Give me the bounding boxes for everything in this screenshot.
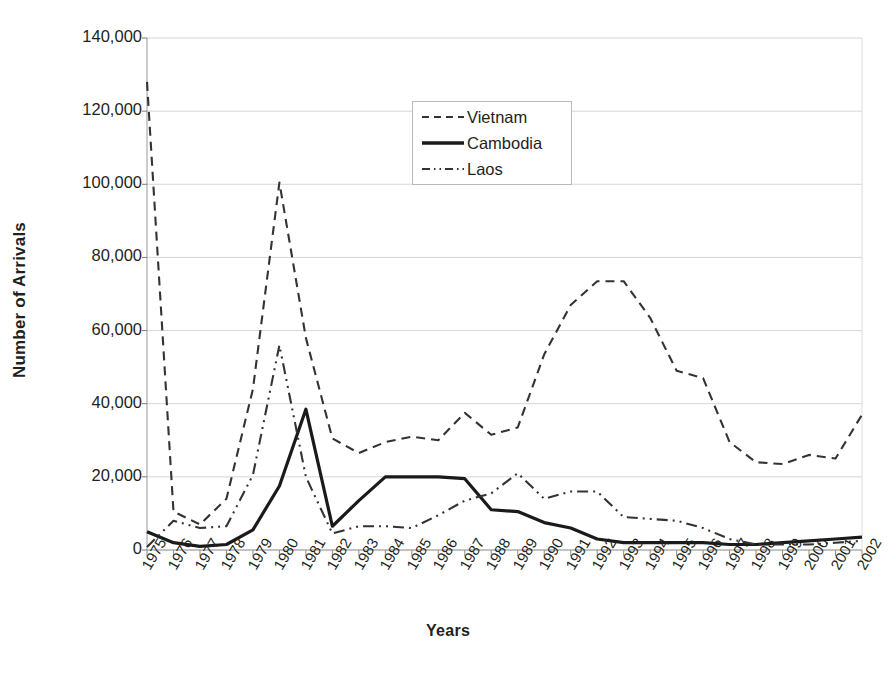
- chart-figure: Number of Arrivals 020,00040,00060,00080…: [0, 0, 896, 675]
- legend-item-cambodia: Cambodia: [421, 130, 542, 156]
- legend-label-cambodia: Cambodia: [467, 134, 542, 153]
- legend-item-laos: Laos: [421, 156, 503, 182]
- legend-swatch-cambodia: [421, 136, 465, 150]
- legend-swatch-vietnam: [421, 110, 465, 124]
- legend-swatch-laos: [421, 162, 465, 176]
- legend: Vietnam Cambodia Laos: [412, 101, 572, 185]
- legend-label-vietnam: Vietnam: [467, 108, 527, 127]
- series-line-cambodia: [147, 409, 862, 546]
- legend-label-laos: Laos: [467, 160, 503, 179]
- x-axis-title: Years: [0, 622, 896, 640]
- legend-item-vietnam: Vietnam: [421, 104, 527, 130]
